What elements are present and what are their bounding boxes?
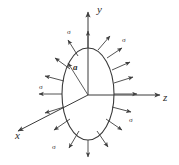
stress-arrow-ene <box>112 62 130 70</box>
axis-label-z: z <box>163 92 167 103</box>
radius-vector <box>68 63 88 95</box>
sigma-label-bottom-left: σ <box>52 144 56 151</box>
stress-arrow-sse <box>97 131 108 147</box>
axis-label-x: x <box>15 130 20 141</box>
stress-arrow-e-up <box>114 77 133 83</box>
axis-x <box>18 95 88 131</box>
stress-arrow-se <box>106 119 122 130</box>
sigma-label-bottom-right: σ <box>129 117 133 124</box>
stress-arrow-nnw <box>68 40 78 56</box>
sigma-label-top-left: σ <box>67 29 71 36</box>
stress-diagram-figure: y z x a σ σ σ σ σ <box>0 0 179 165</box>
radius-label-a: a <box>73 63 78 72</box>
sigma-label-top-right: σ <box>122 37 126 44</box>
stress-arrow-ne <box>107 48 122 58</box>
stress-arrow-sw <box>54 119 70 130</box>
stress-arrow-nne <box>98 36 110 50</box>
stress-arrow-wnw <box>45 76 64 81</box>
stress-arrow-ese <box>112 107 131 112</box>
axis-label-y: y <box>97 4 102 15</box>
stress-arrow-nw <box>55 58 70 69</box>
sigma-label-left: σ <box>39 84 43 91</box>
diagram-canvas <box>0 0 179 165</box>
